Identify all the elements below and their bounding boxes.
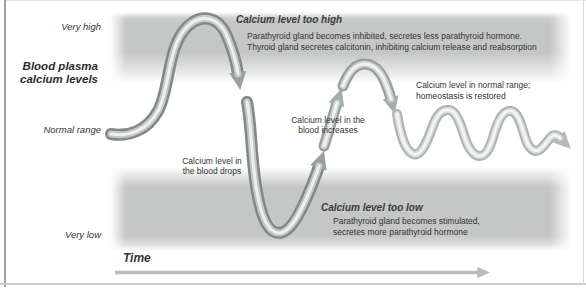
y-tick-very-high: Very high <box>0 21 101 32</box>
annotation-too-low-body: Parathyroid gland becomes stimulated, se… <box>333 216 480 237</box>
y-tick-normal-range: Normal range <box>0 124 101 135</box>
annotation-too-high-heading: Calcium level too high <box>236 14 342 25</box>
annotation-homeostasis-restored: Calcium level in normal range; homeostas… <box>416 80 530 101</box>
y-axis-title: Blood plasma calcium levels <box>0 60 98 85</box>
x-axis-label-time: Time <box>123 251 151 265</box>
annotation-too-low-heading: Calcium level too low <box>321 202 423 213</box>
curve-segment-homeostasis-wave <box>397 110 560 156</box>
curve-segment-overshoot-high <box>111 18 238 134</box>
annotation-too-high-body: Parathyroid gland becomes inhibited, sec… <box>247 31 537 52</box>
annotation-blood-drops: Calcium level in the blood drops <box>176 156 248 176</box>
curve-segment-small-overshoot <box>343 64 391 99</box>
annotation-blood-increases: Calcium level in the blood increases <box>287 115 369 135</box>
y-tick-very-low: Very low <box>0 229 101 240</box>
homeostasis-diagram: Very high Blood plasma calcium levels No… <box>0 0 586 292</box>
